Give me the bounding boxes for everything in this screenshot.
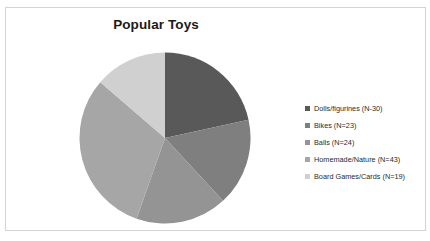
legend-swatch-icon [305,157,310,162]
legend-item: Board Games/Cards (N=19) [305,168,430,185]
legend-swatch-icon [305,123,310,128]
legend-item-label: Board Games/Cards (N=19) [314,173,405,180]
page-top-margin [0,0,430,7]
chart-title: Popular Toys [6,17,306,32]
legend-item-label: Bikes (N=23) [314,122,356,129]
chart-frame: Popular Toys Dolls/figurines (N-30)Bikes… [5,7,426,231]
legend-item: Bikes (N=23) [305,117,430,134]
legend-item-label: Balls (N=24) [314,139,354,146]
chart-legend: Dolls/figurines (N-30)Bikes (N=23)Balls … [305,100,430,185]
legend-item: Balls (N=24) [305,134,430,151]
legend-item: Homemade/Nature (N=43) [305,151,430,168]
pie-chart [79,52,251,224]
legend-swatch-icon [305,106,310,111]
legend-item-label: Dolls/figurines (N-30) [314,105,383,112]
legend-swatch-icon [305,140,310,145]
legend-item: Dolls/figurines (N-30) [305,100,430,117]
legend-swatch-icon [305,174,310,179]
pie-svg [79,52,251,224]
legend-item-label: Homemade/Nature (N=43) [314,156,400,163]
